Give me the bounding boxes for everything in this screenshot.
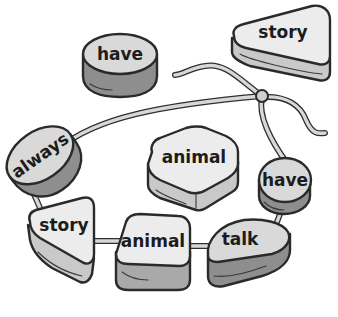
word-beads-illustration: have story animal always story animal (0, 0, 338, 317)
bead-story: story (28, 197, 94, 282)
bead-talk: talk (208, 220, 290, 287)
bead-animal-label: animal (121, 231, 185, 251)
bead-animal: animal (116, 214, 190, 290)
bead-have-label: have (262, 170, 308, 190)
bead-talk-label: talk (222, 229, 259, 249)
bead-story-loose: story (232, 6, 330, 81)
bead-have: have (259, 158, 311, 214)
bead-always: always (0, 114, 94, 210)
knot (256, 90, 268, 102)
bead-have-loose: have (83, 34, 157, 97)
bead-story-label: story (39, 215, 88, 235)
bead-story-loose-label: story (258, 22, 307, 42)
bead-have-loose-label: have (97, 44, 143, 64)
bead-animal-loose: animal (148, 127, 238, 211)
bead-animal-loose-label: animal (162, 147, 226, 167)
